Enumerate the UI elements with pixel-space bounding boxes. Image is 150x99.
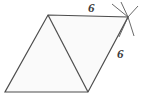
top-side-length-label: 6 [88,1,95,14]
tick-ray-1 [112,4,128,17]
geometry-figure-canvas: 6 6 [0,0,150,99]
figure-svg [0,0,150,99]
parallelogram-outline [5,15,128,92]
right-side-length-label: 6 [117,47,124,60]
tick-ray-5 [128,17,134,36]
tick-ray-3 [128,6,138,17]
tick-ray-2 [121,2,128,17]
